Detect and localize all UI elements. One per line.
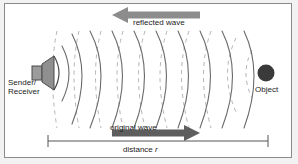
distance-text: distance: [123, 145, 155, 154]
sender-line-2: Receiver: [8, 88, 40, 97]
distance-label: distance r: [123, 146, 158, 155]
filled-circle-icon: [258, 65, 275, 82]
distance-symbol: r: [155, 145, 158, 154]
original-wave-label: original wave: [110, 124, 157, 133]
figure-container: reflected wave original wave distance r …: [0, 0, 298, 164]
wavefronts-group: [53, 31, 255, 128]
object-label: Object: [255, 86, 278, 95]
sender-receiver-label: Sender/ Receiver: [8, 79, 40, 97]
outgoing-wavefronts: [62, 31, 254, 128]
reflected-wave-label: reflected wave: [133, 19, 185, 28]
dimension-line-icon: [48, 135, 268, 147]
